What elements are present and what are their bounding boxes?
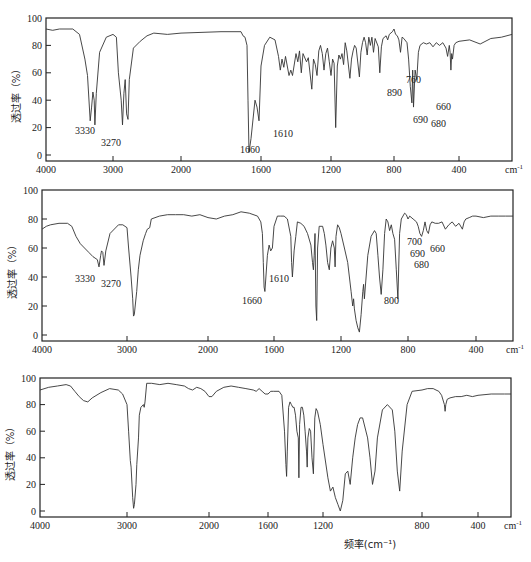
x-tick-label: 800: [415, 520, 430, 531]
y-axis-label: 透过率（%）: [10, 64, 22, 124]
spectrum-panel-bottom: 020406080100透过率（%）4000300020001600120080…: [4, 373, 523, 551]
x-tick-label: 800: [401, 344, 416, 355]
x-tick-label: 1600: [258, 520, 278, 531]
y-tick-label: 20: [26, 479, 36, 490]
y-tick-label: 0: [31, 506, 36, 517]
y-tick-label: 60: [32, 67, 42, 78]
y-tick-label: 0: [37, 150, 42, 161]
y-tick-label: 100: [21, 373, 36, 384]
y-tick-label: 20: [32, 122, 42, 133]
x-unit-label: cm-1: [505, 163, 524, 175]
y-tick-label: 40: [28, 272, 38, 283]
y-axis-label: 透过率（%）: [4, 422, 16, 482]
peak-label: 3270: [101, 278, 121, 289]
peak-label: 1660: [240, 144, 260, 155]
x-tick-label: 800: [387, 164, 402, 175]
x-axis-label: 频率(cm⁻¹): [344, 538, 396, 550]
y-tick-label: 20: [28, 301, 38, 312]
peak-label: 3270: [101, 137, 121, 148]
x-tick-label: 3000: [117, 520, 137, 531]
peak-label: 1610: [269, 273, 289, 284]
y-tick-label: 0: [33, 330, 38, 341]
y-tick-label: 40: [26, 452, 36, 463]
peak-label: 760: [406, 74, 421, 85]
x-tick-label: 400: [469, 344, 484, 355]
peak-label: 660: [436, 101, 451, 112]
y-tick-label: 100: [23, 185, 38, 196]
y-tick-label: 60: [28, 243, 38, 254]
ir-spectra-figure: 020406080100透过率（%）4000300020001600120080…: [0, 0, 531, 562]
x-tick-label: 1200: [331, 344, 351, 355]
x-tick-label: 4000: [32, 344, 52, 355]
x-tick-label: 1200: [313, 520, 333, 531]
peak-label: 680: [431, 118, 446, 129]
plot-frame: [42, 190, 513, 341]
peak-label: 890: [387, 87, 402, 98]
x-tick-label: 2000: [199, 520, 219, 531]
y-tick-label: 60: [26, 426, 36, 437]
x-unit-label: cm-1: [506, 343, 525, 355]
peak-label: 3330: [75, 273, 95, 284]
x-tick-label: 2000: [198, 344, 218, 355]
x-unit-label: cm-1: [504, 519, 523, 531]
peak-label: 1610: [273, 128, 293, 139]
spectrum-panel-top: 020406080100透过率（%）4000300020001600120080…: [10, 13, 524, 176]
peak-label: 1660: [242, 295, 262, 306]
y-tick-label: 80: [32, 40, 42, 51]
x-tick-label: 3000: [103, 164, 123, 175]
x-tick-label: 3000: [117, 344, 137, 355]
peak-label: 690: [410, 248, 425, 259]
peak-label: 800: [384, 295, 399, 306]
y-tick-label: 80: [26, 399, 36, 410]
peak-label: 680: [414, 259, 429, 270]
x-tick-label: 400: [471, 520, 486, 531]
spectrum-panel-middle: 020406080100透过率（%）4000300020001600120080…: [6, 185, 525, 356]
x-tick-label: 2000: [171, 164, 191, 175]
x-tick-label: 1200: [321, 164, 341, 175]
y-axis-label: 透过率（%）: [6, 240, 18, 300]
x-tick-label: 1600: [251, 164, 271, 175]
peak-label: 660: [430, 243, 445, 254]
y-tick-label: 100: [27, 13, 42, 24]
x-tick-label: 4000: [30, 520, 50, 531]
x-tick-label: 1600: [264, 344, 284, 355]
x-tick-label: 4000: [36, 164, 56, 175]
spectrum-line: [40, 383, 511, 511]
peak-label: 690: [413, 114, 428, 125]
peak-label: 700: [407, 236, 422, 247]
x-tick-label: 400: [452, 164, 467, 175]
y-tick-label: 40: [32, 95, 42, 106]
peak-label: 3330: [75, 125, 95, 136]
spectrum-line: [42, 212, 513, 332]
plot-frame: [40, 378, 511, 517]
y-tick-label: 80: [28, 214, 38, 225]
